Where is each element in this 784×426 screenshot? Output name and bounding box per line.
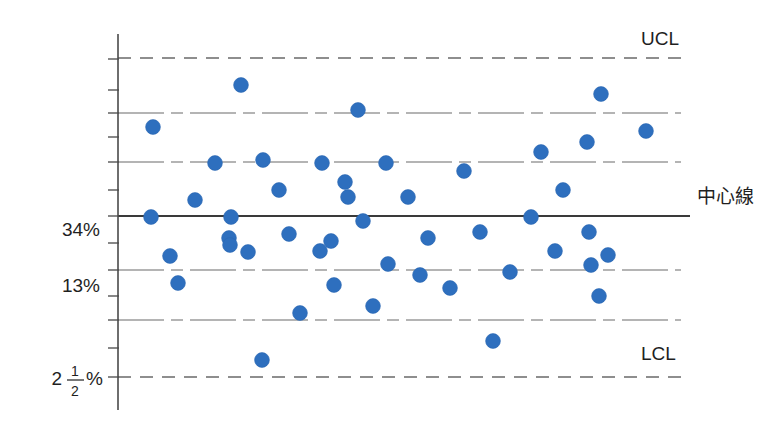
data-point [163, 249, 178, 264]
data-point [592, 289, 607, 304]
fraction-percent-sign: % [86, 368, 103, 389]
data-point [443, 281, 458, 296]
data-point [315, 156, 330, 171]
data-point [401, 190, 416, 205]
data-point [584, 258, 599, 273]
control-chart: 34% 13% 2 1 2 % UCL LCL 中心線 [0, 0, 784, 426]
data-point [366, 299, 381, 314]
y-tick-label-34: 34% [62, 219, 100, 240]
data-point [224, 210, 239, 225]
data-point [379, 156, 394, 171]
data-point [556, 183, 571, 198]
data-point [256, 153, 271, 168]
center-line-label: 中心線 [697, 186, 754, 207]
data-point [234, 78, 249, 93]
data-point [524, 210, 539, 225]
data-point [223, 238, 238, 253]
data-point [486, 334, 501, 349]
data-point [601, 248, 616, 263]
data-point [293, 306, 308, 321]
data-point [241, 245, 256, 260]
data-point [171, 276, 186, 291]
control-chart-canvas: 34% 13% 2 1 2 % UCL LCL 中心線 [0, 0, 784, 426]
data-point [639, 124, 654, 139]
data-point [272, 183, 287, 198]
y-tick-label-13: 13% [62, 275, 100, 296]
data-point [503, 265, 518, 280]
data-point [457, 164, 472, 179]
data-point [582, 225, 597, 240]
data-point [188, 193, 203, 208]
fraction-whole-number: 2 [51, 368, 62, 389]
fraction-denominator: 2 [71, 383, 79, 399]
data-point [594, 87, 609, 102]
data-point [580, 135, 595, 150]
data-point [381, 257, 396, 272]
data-point [413, 268, 428, 283]
data-point [351, 103, 366, 118]
data-point [341, 190, 356, 205]
data-point [534, 145, 549, 160]
fraction-numerator: 1 [71, 363, 79, 379]
data-point [548, 244, 563, 259]
data-point [255, 353, 270, 368]
data-point [421, 231, 436, 246]
data-point [282, 227, 297, 242]
data-point [338, 175, 353, 190]
data-point [473, 225, 488, 240]
data-point [356, 214, 371, 229]
ucl-label: UCL [641, 28, 679, 49]
lcl-label: LCL [641, 343, 676, 364]
data-point [324, 234, 339, 249]
data-point [144, 210, 159, 225]
data-point [208, 156, 223, 171]
data-point [146, 120, 161, 135]
data-point [327, 278, 342, 293]
